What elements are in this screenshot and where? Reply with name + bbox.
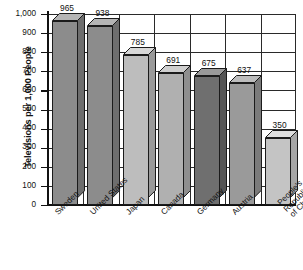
bar-side-face (148, 47, 156, 205)
bar-value-label: 350 (273, 120, 287, 130)
bar-value-label: 675 (202, 58, 216, 68)
y-tick-label: 100 (2, 182, 36, 190)
bar-side-face (254, 75, 262, 205)
y-tick-label: 0 (2, 201, 36, 209)
bar-top-face (123, 47, 157, 56)
y-tick-label: 200 (2, 163, 36, 171)
y-tick-label: 800 (2, 48, 36, 56)
bar-front-face (229, 83, 255, 205)
bar (194, 76, 220, 205)
bar-top-face (158, 65, 192, 74)
gridline (48, 52, 296, 53)
y-tick-label: 500 (2, 105, 36, 113)
y-tick-label: 700 (2, 67, 36, 75)
bar-side-face (77, 13, 85, 205)
bar-side-face (219, 68, 227, 205)
bar-top-face (265, 130, 299, 139)
bar-top-face (52, 13, 86, 22)
bar-top-face (229, 75, 263, 84)
y-tick-label: 400 (2, 124, 36, 132)
bar-front-face (194, 76, 220, 205)
bar-top-face (87, 18, 121, 27)
bar-value-label: 965 (60, 3, 74, 13)
y-axis-line (47, 11, 49, 205)
bar-value-label: 785 (131, 37, 145, 47)
bar-front-face (87, 26, 113, 205)
bar-front-face (158, 73, 184, 205)
y-tick-label: 600 (2, 86, 36, 94)
bar-front-face (52, 21, 78, 205)
bar-side-face (112, 18, 120, 205)
plot-area: 965938785691675637350 (48, 14, 296, 205)
gridline (48, 33, 296, 34)
y-tick-label: 1,000 (2, 10, 36, 18)
bar-value-label: 691 (166, 55, 180, 65)
bar-side-face (183, 65, 191, 205)
bar-value-label: 637 (237, 65, 251, 75)
bar-chart: Televisions per 1,000 People 1,000900800… (0, 0, 303, 270)
bar (87, 26, 113, 205)
y-tick-label: 300 (2, 143, 36, 151)
bar (229, 83, 255, 205)
bar (52, 21, 78, 205)
bar-value-label: 938 (95, 8, 109, 18)
bar-top-face (194, 68, 228, 77)
bar (158, 73, 184, 205)
y-tick-label: 900 (2, 29, 36, 37)
